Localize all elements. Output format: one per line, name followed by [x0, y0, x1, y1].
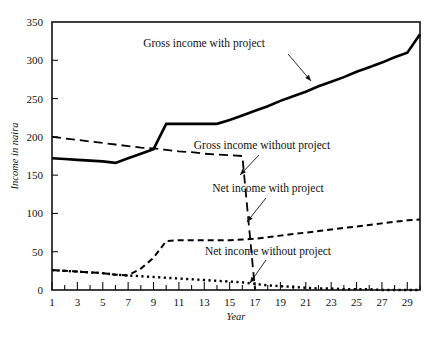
y-tick-label: 100 [27, 207, 44, 219]
x-tick-label: 27 [376, 296, 388, 308]
y-tick-label: 300 [27, 54, 44, 66]
y-tick-label: 250 [27, 93, 44, 105]
x-tick-label: 15 [224, 296, 236, 308]
x-tick-label: 3 [75, 296, 81, 308]
x-tick-label: 21 [300, 296, 311, 308]
figure-container: 050100150200250300350 135791113151719212… [0, 0, 439, 339]
annotation-label: Net income with project [212, 182, 324, 195]
y-tick-label: 50 [32, 246, 44, 258]
y-tick-label: 350 [27, 16, 44, 28]
x-tick-label: 5 [100, 296, 106, 308]
annotation-label: Gross income with project [143, 37, 265, 50]
annotation-label: Gross income without project [194, 139, 331, 152]
x-tick-label: 25 [351, 296, 363, 308]
y-tick-label: 200 [27, 131, 44, 143]
chart-background [0, 0, 439, 339]
x-tick-label: 13 [199, 296, 211, 308]
x-tick-label: 11 [174, 296, 185, 308]
x-tick-label: 29 [402, 296, 414, 308]
x-tick-label: 9 [151, 296, 157, 308]
x-tick-label: 7 [125, 296, 131, 308]
line-chart: 050100150200250300350 135791113151719212… [0, 0, 439, 339]
y-axis-title: Income in naira [9, 122, 20, 190]
x-tick-label: 1 [49, 296, 55, 308]
x-tick-label: 17 [250, 296, 262, 308]
annotation-label: Net income without project [205, 245, 332, 258]
y-tick-label: 0 [38, 284, 44, 296]
x-axis-title: Year [227, 311, 247, 322]
x-axis-tick-labels: 1357911131517192123252729 [49, 296, 413, 308]
x-tick-label: 23 [326, 296, 338, 308]
y-tick-label: 150 [27, 169, 44, 181]
x-tick-label: 19 [275, 296, 287, 308]
